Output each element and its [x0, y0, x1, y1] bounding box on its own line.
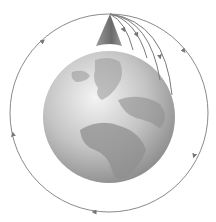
diagram-caption	[0, 213, 216, 222]
orbit-diagram	[0, 0, 216, 222]
diagram-canvas	[0, 0, 216, 222]
earth-globe	[43, 51, 175, 183]
mountain-peak	[96, 14, 122, 46]
